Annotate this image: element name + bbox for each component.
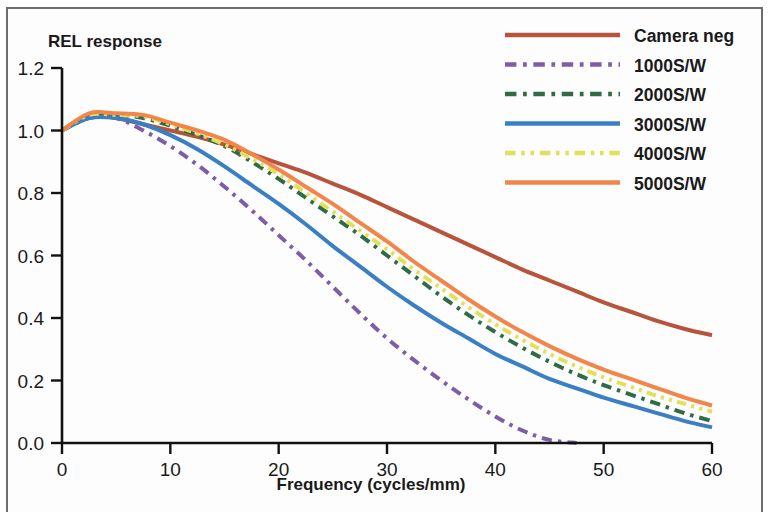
series-group [62,112,712,443]
y-axis-tick-label: 0.2 [18,371,44,392]
y-axis-title: REL response [48,32,162,51]
y-axis-tick-label: 0.8 [18,183,44,204]
y-axis-tick-label: 1.0 [18,121,44,142]
series-line-3000s-w [62,117,712,428]
legend-label-3: 2000S/W [634,85,706,105]
x-axis-tick-label: 0 [57,459,68,480]
series-line-camera-neg [62,114,712,335]
y-axis-tick-label: 1.2 [18,58,44,79]
legend-label-5: 4000S/W [634,144,706,164]
x-axis-tick-label: 50 [593,459,614,480]
legend-label-6: 5000S/W [634,174,706,194]
series-line-4000s-w [62,114,712,412]
x-axis-tick-label: 10 [160,459,181,480]
legend-label-4: 3000S/W [634,115,706,135]
series-line-5000s-w [62,112,712,406]
chart-legend: Camera neg1000S/W2000S/W3000S/W4000S/W50… [505,26,734,194]
legend-label-2: 1000S/W [634,56,706,76]
legend-label-1: Camera neg [634,26,734,46]
y-axis-tick-label: 0.4 [18,308,45,329]
x-axis-tick-label: 40 [485,459,506,480]
x-axis-tick-label: 60 [701,459,722,480]
y-axis-tick-label: 0.6 [18,246,44,267]
series-line-1000s-w [62,116,577,443]
y-axis-tick-label: 0.0 [18,433,44,454]
x-axis-title: Frequency (cycles/mm) [277,475,466,494]
